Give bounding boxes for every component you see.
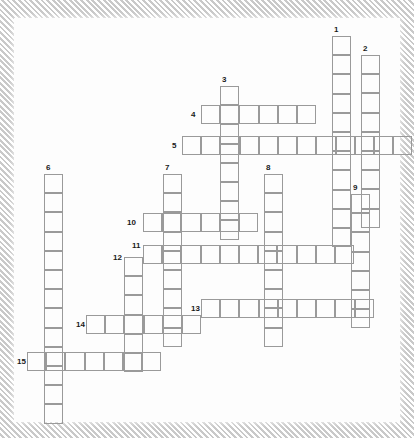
- crossword-cell[interactable]: [278, 136, 297, 155]
- crossword-cell[interactable]: [162, 213, 181, 232]
- crossword-cell[interactable]: [144, 315, 163, 334]
- crossword-cell[interactable]: [335, 245, 354, 264]
- crossword-cell[interactable]: [278, 105, 297, 124]
- crossword-cell[interactable]: [105, 315, 124, 334]
- crossword-cell[interactable]: [123, 352, 142, 371]
- crossword-cell[interactable]: [259, 299, 278, 318]
- crossword-cell[interactable]: [44, 385, 63, 404]
- crossword-cell[interactable]: [44, 404, 63, 423]
- crossword-cell[interactable]: [332, 94, 351, 113]
- crossword-cell[interactable]: [220, 86, 239, 105]
- crossword-cell[interactable]: [201, 105, 220, 124]
- crossword-cell[interactable]: [297, 105, 316, 124]
- crossword-cell[interactable]: [201, 299, 220, 318]
- crossword-cell[interactable]: [336, 136, 355, 155]
- crossword-cell[interactable]: [44, 308, 63, 327]
- crossword-cell[interactable]: [182, 315, 201, 334]
- crossword-cell[interactable]: [351, 194, 370, 213]
- crossword-cell[interactable]: [258, 245, 277, 264]
- crossword-cell[interactable]: [124, 295, 143, 314]
- crossword-cell[interactable]: [239, 213, 258, 232]
- crossword-cell[interactable]: [44, 174, 63, 193]
- crossword-cell[interactable]: [374, 136, 393, 155]
- crossword-cell[interactable]: [181, 245, 200, 264]
- crossword-cell[interactable]: [351, 213, 370, 232]
- crossword-cell[interactable]: [220, 105, 239, 124]
- crossword-cell[interactable]: [355, 136, 374, 155]
- crossword-cell[interactable]: [44, 289, 63, 308]
- crossword-cell[interactable]: [316, 299, 335, 318]
- crossword-cell[interactable]: [163, 289, 182, 308]
- crossword-cell[interactable]: [44, 193, 63, 212]
- crossword-cell[interactable]: [335, 299, 354, 318]
- crossword-cell[interactable]: [44, 270, 63, 289]
- crossword-cell[interactable]: [181, 213, 200, 232]
- crossword-cell[interactable]: [143, 245, 162, 264]
- crossword-cell[interactable]: [27, 352, 46, 371]
- crossword-cell[interactable]: [361, 74, 380, 93]
- crossword-cell[interactable]: [44, 232, 63, 251]
- crossword-cell[interactable]: [297, 299, 316, 318]
- crossword-cell[interactable]: [332, 36, 351, 55]
- crossword-cell[interactable]: [124, 315, 143, 334]
- crossword-cell[interactable]: [220, 182, 239, 201]
- crossword-cell[interactable]: [124, 276, 143, 295]
- crossword-cell[interactable]: [332, 190, 351, 209]
- crossword-cell[interactable]: [361, 170, 380, 189]
- crossword-cell[interactable]: [239, 245, 258, 264]
- crossword-cell[interactable]: [259, 105, 278, 124]
- crossword-cell[interactable]: [163, 193, 182, 212]
- crossword-board[interactable]: 123456789101112131415: [14, 18, 400, 422]
- crossword-cell[interactable]: [393, 136, 412, 155]
- crossword-cell[interactable]: [143, 213, 162, 232]
- crossword-cell[interactable]: [162, 245, 181, 264]
- crossword-cell[interactable]: [361, 93, 380, 112]
- crossword-cell[interactable]: [264, 328, 283, 347]
- crossword-cell[interactable]: [332, 113, 351, 132]
- crossword-cell[interactable]: [124, 334, 143, 353]
- crossword-cell[interactable]: [124, 257, 143, 276]
- crossword-cell[interactable]: [239, 105, 258, 124]
- crossword-cell[interactable]: [264, 270, 283, 289]
- crossword-cell[interactable]: [163, 174, 182, 193]
- crossword-cell[interactable]: [264, 212, 283, 231]
- crossword-cell[interactable]: [220, 136, 239, 155]
- crossword-cell[interactable]: [104, 352, 123, 371]
- crossword-cell[interactable]: [163, 270, 182, 289]
- crossword-cell[interactable]: [239, 299, 258, 318]
- crossword-cell[interactable]: [44, 251, 63, 270]
- crossword-cell[interactable]: [163, 315, 182, 334]
- crossword-cell[interactable]: [65, 352, 84, 371]
- crossword-cell[interactable]: [278, 299, 297, 318]
- crossword-cell[interactable]: [316, 136, 335, 155]
- crossword-cell[interactable]: [361, 55, 380, 74]
- crossword-cell[interactable]: [220, 299, 239, 318]
- crossword-cell[interactable]: [85, 352, 104, 371]
- crossword-cell[interactable]: [44, 328, 63, 347]
- crossword-cell[interactable]: [182, 136, 201, 155]
- crossword-cell[interactable]: [220, 213, 239, 232]
- crossword-cell[interactable]: [142, 352, 161, 371]
- crossword-cell[interactable]: [355, 299, 374, 318]
- crossword-cell[interactable]: [351, 271, 370, 290]
- crossword-cell[interactable]: [297, 136, 316, 155]
- crossword-cell[interactable]: [264, 174, 283, 193]
- crossword-cell[interactable]: [240, 136, 259, 155]
- crossword-cell[interactable]: [361, 113, 380, 132]
- crossword-cell[interactable]: [264, 193, 283, 212]
- crossword-cell[interactable]: [201, 245, 220, 264]
- crossword-cell[interactable]: [332, 55, 351, 74]
- crossword-cell[interactable]: [220, 163, 239, 182]
- crossword-cell[interactable]: [332, 74, 351, 93]
- crossword-cell[interactable]: [332, 170, 351, 189]
- crossword-cell[interactable]: [86, 315, 105, 334]
- crossword-cell[interactable]: [44, 212, 63, 231]
- crossword-cell[interactable]: [259, 136, 278, 155]
- crossword-cell[interactable]: [277, 245, 296, 264]
- crossword-cell[interactable]: [332, 209, 351, 228]
- crossword-cell[interactable]: [46, 352, 65, 371]
- crossword-cell[interactable]: [201, 136, 220, 155]
- crossword-cell[interactable]: [316, 245, 335, 264]
- crossword-cell[interactable]: [297, 245, 316, 264]
- crossword-cell[interactable]: [220, 245, 239, 264]
